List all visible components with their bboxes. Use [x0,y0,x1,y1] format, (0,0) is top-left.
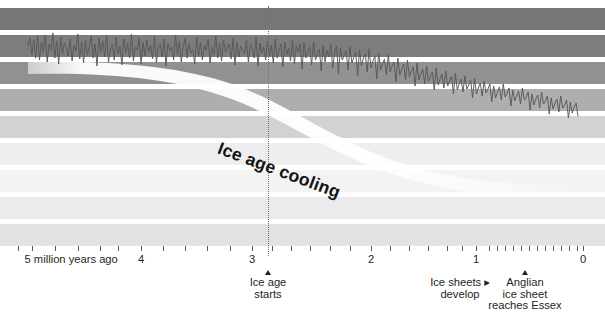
axis-tick-12 [272,246,273,251]
axis-label-5ma: 5 million years ago [25,253,118,265]
axis-tick-14 [310,246,311,251]
ice-age-starts-marker [265,270,271,275]
axis-tick-10 [230,246,231,251]
axis-label-0: 0 [580,253,586,265]
axis-tick-2 [55,246,56,251]
axis-tick-4 [100,246,101,251]
axis-tick-32 [553,246,554,251]
annotation-ice-age-starts-line1: Ice age [250,277,287,289]
axis-tick-9 [207,246,208,251]
axis-tick-21 [447,246,448,251]
annotation-anglian-ice-sheet: Anglian ice sheet reaches Essex [488,277,561,312]
axis-tick-33 [561,246,562,251]
annotation-ice-sheets-develop: Ice sheets ▸ develop [430,277,490,300]
axis-tick-1 [32,246,33,251]
axis-tick-22 [462,246,463,251]
axis-tick-5 [118,246,119,251]
axis-label-4: 4 [138,253,144,265]
axis-tick-27 [513,246,514,251]
annotation-anglian-line3: reaches Essex [488,300,561,312]
axis-tick-31 [545,246,546,251]
axis-tick-36 [583,246,584,251]
axis-tick-11 [252,246,253,251]
time-axis: 5 million years ago 4 3 2 1 0 Ice age st… [0,246,605,328]
axis-tick-30 [537,246,538,251]
axis-label-2: 2 [368,253,374,265]
axis-tick-26 [505,246,506,251]
axis-tick-16 [350,246,351,251]
axis-tick-25 [497,246,498,251]
axis-tick-29 [529,246,530,251]
axis-tick-6 [141,246,142,251]
annotation-ice-age-starts-line2: starts [250,289,287,301]
axis-tick-23 [476,246,477,251]
axis-tick-3 [78,246,79,251]
axis-tick-24 [489,246,490,251]
annotation-ice-sheets-develop-line2: develop [430,289,490,301]
axis-tick-7 [163,246,164,251]
climate-chart-figure: Ice age cooling 5 million years ago 4 3 … [0,0,605,328]
annotation-ice-age-starts: Ice age starts [250,277,287,300]
axis-label-1: 1 [473,253,479,265]
axis-tick-8 [185,246,186,251]
axis-tick-19 [409,246,410,251]
anglian-ice-sheet-marker [522,270,528,275]
axis-tick-0 [18,246,19,251]
axis-tick-28 [521,246,522,251]
axis-tick-17 [371,246,372,251]
axis-tick-15 [330,246,331,251]
annotation-anglian-line1: Anglian [488,277,561,289]
temperature-proxy-line [28,33,578,118]
axis-tick-20 [428,246,429,251]
axis-tick-13 [291,246,292,251]
axis-tick-35 [577,246,578,251]
ice-age-starts-guideline [268,6,269,256]
axis-tick-18 [390,246,391,251]
axis-label-3: 3 [249,253,255,265]
annotation-ice-sheets-develop-line1: Ice sheets ▸ [430,277,490,289]
axis-tick-34 [569,246,570,251]
